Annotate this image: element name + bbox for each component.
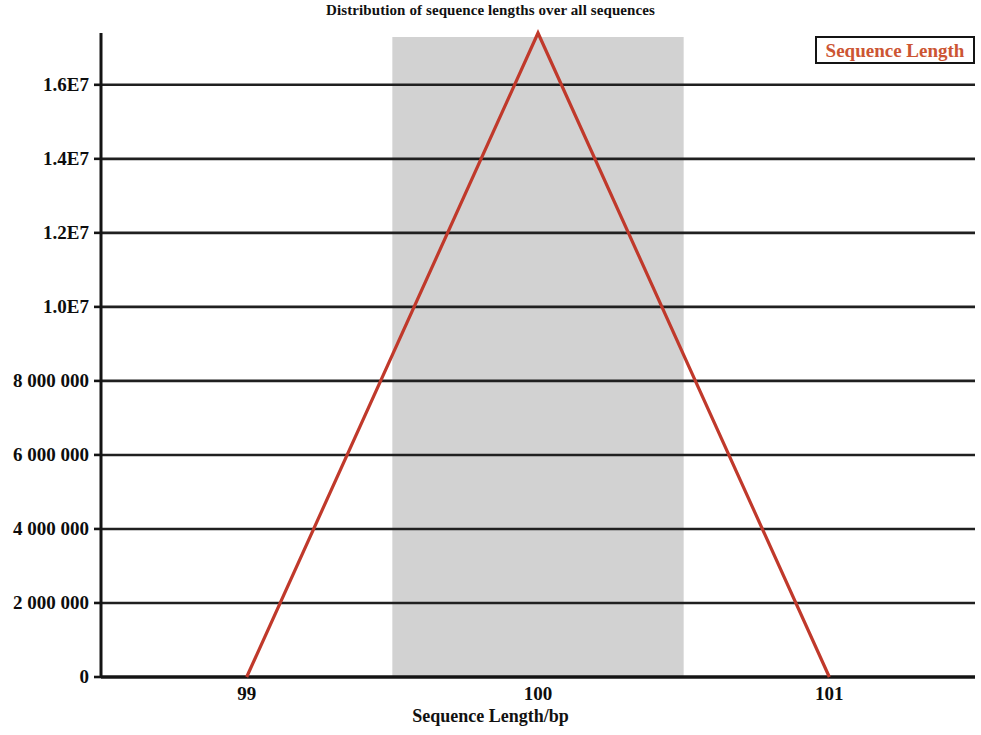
y-axis-tick-label: 4 000 000 [0,518,89,540]
highlight-band-group [392,37,683,677]
x-axis-title: Sequence Length/bp [0,706,981,727]
x-axis-tick-label: 100 [524,683,553,705]
y-axis-tick-label: 8 000 000 [0,370,89,392]
y-axis-tick-label: 0 [0,666,89,688]
x-axis-tick-label: 101 [815,683,844,705]
y-axis-tick-label: 6 000 000 [0,444,89,466]
legend[interactable]: Sequence Length [815,36,975,64]
y-axis-tick-label: 1.0E7 [0,296,89,318]
y-axis-tick-label: 1.2E7 [0,222,89,244]
plot-area [0,0,981,735]
y-axis-tick-label: 1.6E7 [0,74,89,96]
chart-container: Distribution of sequence lengths over al… [0,0,981,735]
y-axis-tick-label: 1.4E7 [0,148,89,170]
x-axis-tick-label: 99 [237,683,256,705]
highlight-band [392,37,683,677]
y-axis-tick-label: 2 000 000 [0,592,89,614]
legend-entry-label: Sequence Length [826,41,965,60]
